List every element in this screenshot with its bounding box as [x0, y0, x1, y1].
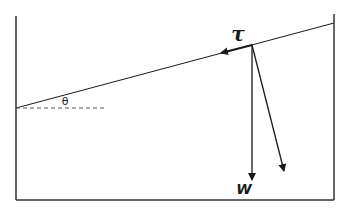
angle-label: θ — [62, 95, 69, 108]
diagram-canvas: θ τ W — [0, 0, 346, 210]
shear-arrow — [221, 45, 252, 53]
normal-component-arrow — [252, 45, 284, 171]
weight-label: W — [236, 181, 252, 197]
shear-label: τ — [231, 22, 245, 46]
diagram-svg: θ τ W — [0, 0, 346, 210]
